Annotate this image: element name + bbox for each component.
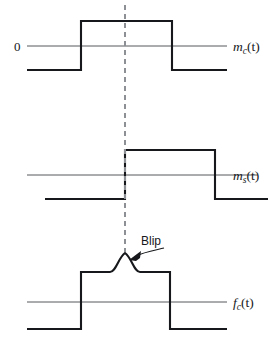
panel-ms: ms(t) — [27, 150, 268, 199]
blip-annotation: Blip — [129, 234, 164, 261]
signal-label-ms: ms(t) — [233, 168, 259, 185]
zero-label: 0 — [14, 39, 21, 54]
blip-label: Blip — [141, 234, 161, 248]
signal-label-mc: mc(t) — [233, 39, 260, 56]
signal-label-ms-arg: (t) — [246, 168, 259, 183]
waveform-figure: 0 mc(t) ms(t) fc(t) Blip — [0, 0, 279, 344]
panel-fc: fc(t) — [27, 253, 254, 329]
signal-label-fc-arg: (t) — [241, 295, 254, 310]
blip-arrowhead-icon — [129, 251, 141, 261]
waveform-fc — [27, 253, 227, 329]
figure-canvas: 0 mc(t) ms(t) fc(t) Blip — [0, 0, 279, 344]
signal-label-ms-base: m — [233, 168, 243, 183]
signal-label-mc-arg: (t) — [247, 39, 260, 54]
signal-label-mc-base: m — [233, 39, 243, 54]
panel-mc: 0 mc(t) — [14, 21, 260, 70]
signal-label-fc: fc(t) — [233, 295, 254, 312]
